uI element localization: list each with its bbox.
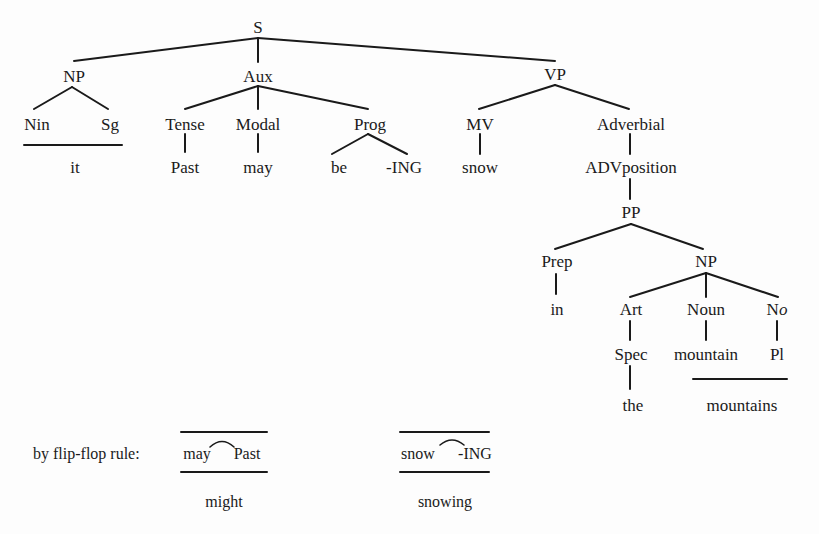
node-nin: Nin xyxy=(24,116,50,133)
node-no-suffix: o xyxy=(779,300,788,319)
node-modal: Modal xyxy=(236,116,280,133)
node-mv: MV xyxy=(466,116,493,133)
rule1-right: Past xyxy=(234,446,261,462)
edge-s-vp xyxy=(258,38,555,61)
node-subject-np: NP xyxy=(63,68,85,85)
edge-vp-mv xyxy=(479,85,555,109)
node-vp: VP xyxy=(544,66,566,83)
node-past: Past xyxy=(171,159,199,176)
edge-s-np xyxy=(74,38,258,61)
node-art: Art xyxy=(620,301,643,318)
edge-np-art xyxy=(630,273,706,297)
node-noun: Noun xyxy=(687,301,725,318)
node-it: it xyxy=(70,159,79,176)
edge-prog-ing xyxy=(368,134,407,154)
node-prep: Prep xyxy=(541,253,572,270)
node-spec: Spec xyxy=(614,346,647,363)
edge-np-nin xyxy=(34,87,72,109)
node-mountains: mountains xyxy=(707,397,778,414)
rule2-result: snowing xyxy=(418,494,472,510)
node-advposition: ADVposition xyxy=(585,159,677,176)
edge-prog-be xyxy=(332,134,368,154)
rule1-left: may xyxy=(183,446,211,462)
node-the: the xyxy=(623,397,644,414)
node-tense: Tense xyxy=(165,116,204,133)
node-snow: snow xyxy=(462,159,498,176)
rule2-right: -ING xyxy=(458,446,492,462)
rule1-result: might xyxy=(205,494,242,510)
edge-aux-prog xyxy=(258,86,368,109)
node-pp: PP xyxy=(622,204,641,221)
edge-np-sg xyxy=(72,87,108,109)
node-object-np: NP xyxy=(695,253,717,270)
node-s: S xyxy=(253,19,262,36)
node-be: be xyxy=(331,159,347,176)
node-no: No xyxy=(767,301,788,318)
node-mountain: mountain xyxy=(674,346,738,363)
node-sg: Sg xyxy=(101,116,119,133)
node-pl: Pl xyxy=(770,346,784,363)
node-prog: Prog xyxy=(354,116,386,133)
edge-vp-adverbial xyxy=(555,85,629,109)
node-aux: Aux xyxy=(243,68,272,85)
edge-np-no xyxy=(706,273,778,297)
node-adverbial: Adverbial xyxy=(597,116,665,133)
syntax-tree-diagram: …ring-transformational derivation… xyxy=(0,0,819,534)
node-no-prefix: N xyxy=(767,300,779,319)
arc-may-past xyxy=(210,442,234,448)
edge-aux-tense xyxy=(185,86,258,109)
rule2-left: snow xyxy=(401,446,435,462)
edge-pp-np xyxy=(631,224,703,249)
node-ing: -ING xyxy=(386,159,422,176)
node-may: may xyxy=(243,159,272,176)
flip-flop-label: by flip-flop rule: xyxy=(33,446,140,462)
edge-pp-prep xyxy=(555,224,631,249)
node-in: in xyxy=(550,301,563,318)
